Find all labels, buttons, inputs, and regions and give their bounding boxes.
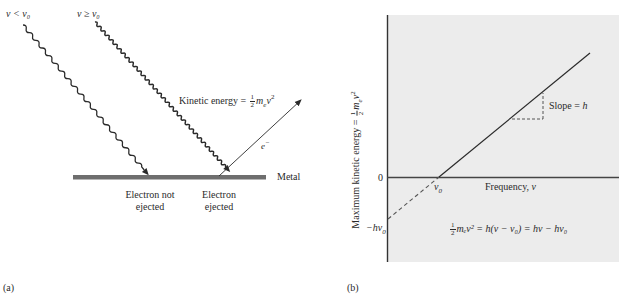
half-fraction: 12 [350,111,365,117]
low-frequency-condition-label: ν < ν₀ [6,8,30,20]
metal-text: Metal [277,171,300,182]
panel-b-label: (b) [347,282,359,293]
figure-graphics [0,0,624,296]
photon-wave-low-frequency-icon [21,23,151,177]
electron-symbol-label: e− [261,140,270,152]
threshold-frequency-label: ν0 [434,181,442,193]
panel-a-caption: (a) [3,282,14,294]
panel-b-caption: (b) [347,282,359,294]
ejected-electron-arrow-icon [219,100,301,176]
condition-text: ν < ν₀ [6,8,30,19]
half-fraction: 12 [250,94,256,109]
intercept-label: −hν0 [366,222,386,234]
metal-label: Metal [277,171,300,183]
kinetic-energy-label: Kinetic energy = 12mev2 [179,94,274,109]
intercept-subscript: 0 [382,228,386,236]
photoelectric-equation: 12mₑv² = h(ν − ν₀) = hν − hν₀ [449,222,567,237]
zero-text: 0 [378,172,383,183]
outcome-line-1: Electron not [116,189,184,201]
x-axis-label: Frequency, ν [485,181,536,193]
condition-text: ν ≥ ν₀ [77,8,100,19]
outcome-line-2: ejected [116,201,184,213]
slope-prefix: Slope = [549,100,582,111]
zero-tick-label: 0 [378,172,383,184]
frac-den: 2 [450,230,456,237]
half-fraction: 12 [450,222,456,237]
metal-surface [73,175,266,180]
electron-ejected-label: Electron ejected [197,189,241,213]
x-label-prefix: Frequency, [485,181,532,192]
outcome-line-1: Electron [197,189,241,201]
x-label-var: ν [532,181,536,192]
intercept-text: −hν [366,222,382,233]
outcome-line-2: ejected [197,201,241,213]
electron-charge: − [265,139,270,147]
nu-subscript: 0 [438,187,442,195]
slope-label: Slope = h [549,100,587,112]
frac-den: 2 [358,111,365,117]
exponent: 2 [271,93,275,101]
slope-var: h [582,100,587,111]
mass-subscript: e [356,99,364,102]
high-frequency-condition-label: ν ≥ ν₀ [77,8,100,20]
y-axis-label: Maximum kinetic energy = 12mev2 [350,91,365,228]
exponent: 2 [349,91,357,95]
photoelectric-effect-figure: ν < ν₀ ν ≥ ν₀ Kinetic energy = 12mev2 e−… [0,0,624,296]
ke-prefix: Kinetic energy = [179,95,249,106]
electron-not-ejected-label: Electron not ejected [116,189,184,213]
velocity-symbol: v [350,95,361,99]
frac-den: 2 [250,102,256,109]
panel-a-label: (a) [3,282,14,293]
y-label-prefix: Maximum kinetic energy = [350,117,361,229]
equation-text: mₑv² = h(ν − ν₀) = hν − hν₀ [457,223,568,234]
mass-symbol: m [350,102,361,109]
